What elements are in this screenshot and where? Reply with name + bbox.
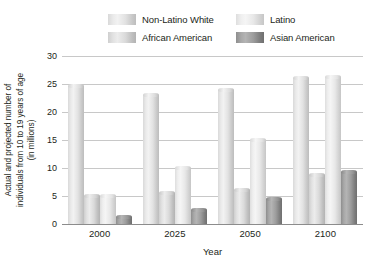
- bar-fill: [159, 193, 175, 224]
- y-axis-title: Actual and projected number of individua…: [0, 54, 40, 226]
- legend-item-latino: Latino: [236, 10, 360, 28]
- legend-label-african-american: African American: [142, 32, 212, 43]
- bar-2000-african-american: [84, 196, 100, 224]
- bar-fill: [250, 140, 266, 224]
- y-tick-label-5: 5: [52, 192, 57, 201]
- bar-cap: [175, 166, 191, 170]
- bar-cap: [84, 194, 100, 198]
- bar-cap: [218, 88, 234, 92]
- legend-swatch-latino: [236, 14, 264, 25]
- legend-item-asian-american: Asian American: [236, 28, 360, 46]
- bar-cap: [266, 197, 282, 201]
- bar-group-2050: [213, 56, 288, 224]
- y-tick-label-30: 30: [47, 52, 57, 61]
- bar-2100-asian-american: [341, 172, 357, 224]
- bar-group-2025: [137, 56, 212, 224]
- legend-label-latino: Latino: [270, 14, 295, 25]
- bar-groups: [62, 56, 363, 224]
- y-axis-title-line3: (in millions): [26, 54, 38, 226]
- bar-fill: [143, 95, 159, 224]
- bar-cap: [100, 194, 116, 198]
- x-axis-title: Year: [62, 246, 363, 257]
- bar-fill: [175, 168, 191, 224]
- bar-fill: [309, 175, 325, 224]
- bar-fill: [191, 210, 207, 224]
- bar-2000-non-latino-white: [68, 86, 84, 224]
- legend-item-non-latino-white: Non-Latino White: [108, 10, 236, 28]
- chart-legend: Non-Latino White Latino African American…: [108, 10, 360, 46]
- x-tick-label-2100: 2100: [288, 228, 363, 242]
- bar-fill: [68, 86, 84, 224]
- legend-item-african-american: African American: [108, 28, 236, 46]
- y-tick-label-10: 10: [47, 164, 57, 173]
- bar-2050-asian-american: [266, 199, 282, 224]
- bar-2100-non-latino-white: [293, 78, 309, 224]
- bar-2025-african-american: [159, 193, 175, 224]
- bar-fill: [100, 196, 116, 224]
- legend-swatch-non-latino-white: [108, 14, 136, 25]
- bar-cap: [309, 173, 325, 177]
- bar-cap: [325, 75, 341, 79]
- legend-swatch-asian-american: [236, 32, 264, 43]
- bar-2000-asian-american: [116, 217, 132, 224]
- bar-fill: [234, 190, 250, 224]
- bar-2100-african-american: [309, 175, 325, 224]
- bar-fill: [84, 196, 100, 224]
- bar-cap: [143, 93, 159, 97]
- bar-group-2100: [288, 56, 363, 224]
- bar-cap: [250, 138, 266, 142]
- bar-chart: Non-Latino White Latino African American…: [0, 0, 368, 274]
- x-tick-label-2050: 2050: [213, 228, 288, 242]
- plot-area: 302520151050: [62, 56, 363, 224]
- bar-2050-non-latino-white: [218, 90, 234, 224]
- bar-cap: [159, 191, 175, 195]
- legend-label-non-latino-white: Non-Latino White: [142, 14, 214, 25]
- bar-group-2000: [62, 56, 137, 224]
- bar-2025-non-latino-white: [143, 95, 159, 224]
- x-axis-tick-labels: 2000202520502100: [62, 228, 363, 242]
- bar-2100-latino: [325, 77, 341, 224]
- bar-fill: [325, 77, 341, 224]
- y-axis-title-line2: individuals from 10 to 19 years of age: [14, 54, 26, 226]
- bar-cap: [234, 188, 250, 192]
- y-tick-label-0: 0: [52, 220, 57, 229]
- legend-swatch-african-american: [108, 32, 136, 43]
- bar-cap: [116, 215, 132, 219]
- bar-fill: [293, 78, 309, 224]
- bar-fill: [266, 199, 282, 224]
- y-axis-title-line1: Actual and projected number of: [3, 54, 15, 226]
- bar-2000-latino: [100, 196, 116, 224]
- bar-fill: [218, 90, 234, 224]
- bar-2025-latino: [175, 168, 191, 224]
- y-tick-label-25: 25: [47, 80, 57, 89]
- bar-2025-asian-american: [191, 210, 207, 224]
- bar-2050-latino: [250, 140, 266, 224]
- bar-2050-african-american: [234, 190, 250, 224]
- gridline-0: 0: [62, 224, 363, 225]
- legend-label-asian-american: Asian American: [270, 32, 335, 43]
- bar-cap: [68, 84, 84, 88]
- x-tick-label-2000: 2000: [62, 228, 137, 242]
- y-tick-label-15: 15: [47, 136, 57, 145]
- y-tick-label-20: 20: [47, 108, 57, 117]
- bar-cap: [191, 208, 207, 212]
- bar-fill: [341, 172, 357, 224]
- x-tick-label-2025: 2025: [137, 228, 212, 242]
